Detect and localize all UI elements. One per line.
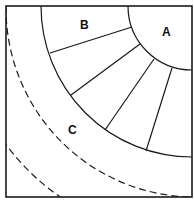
zone-diagram: A B C [0, 0, 194, 203]
radial-divider-2 [71, 44, 140, 95]
label-b: B [80, 18, 89, 32]
radial-divider-1 [50, 27, 132, 53]
inner-arc-a [128, 6, 192, 70]
label-a: A [162, 25, 171, 39]
radial-divider-4 [146, 68, 172, 151]
label-c: C [68, 123, 77, 137]
radial-divider-3 [105, 59, 154, 130]
